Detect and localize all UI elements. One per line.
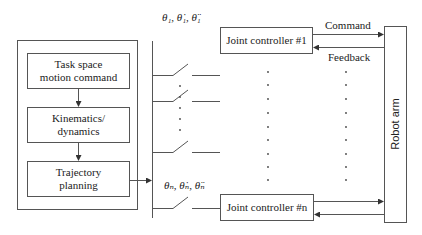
joint1-signal-label: θ₁, θ̇₁, θ̈₁	[162, 11, 201, 23]
ellipsis-dots	[179, 71, 347, 181]
command-label: Command	[325, 19, 371, 31]
kinematics-line1: Kinematics/	[52, 112, 105, 125]
task-space-line2: motion command	[40, 71, 117, 84]
kinematics-line2: dynamics	[57, 125, 99, 138]
jointn-signal-label: θₙ, θ̇ₙ, θ̈ₙ	[164, 179, 205, 191]
robot-arm-label: Robot arm	[389, 94, 401, 154]
task-space-label: Task space motion command	[28, 54, 129, 88]
trajectory-label: Trajectory planning	[28, 162, 129, 196]
joint-controller-n-label: Joint controller #n	[221, 195, 313, 220]
feedback-label: Feedback	[328, 51, 370, 63]
joint-controller-1-label: Joint controller #1	[221, 28, 312, 53]
task-space-line1: Task space	[55, 58, 103, 71]
kinematics-label: Kinematics/ dynamics	[28, 108, 129, 142]
trajectory-line1: Trajectory	[56, 166, 101, 179]
trajectory-line2: planning	[59, 179, 98, 192]
